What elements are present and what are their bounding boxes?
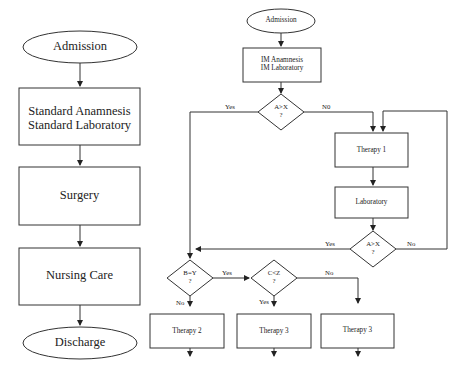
decision4-condition: C<Z [254,269,294,277]
left-nursing-label: Nursing Care [19,268,140,282]
therapy3b-label: Therapy 3 [321,326,394,334]
decision3-question: ? [170,277,210,285]
therapy1-label: Therapy 1 [335,146,408,154]
decision1-no-label: N0 [322,103,330,111]
left-surgery-label: Surgery [19,188,140,202]
decision4-no-label: No [325,269,333,277]
im-label: IM Anamnesis IM Laboratory [243,56,321,73]
decision2-no-label: No [407,240,415,248]
standard-anamnesis-text: Standard Anamnesis [19,104,140,118]
decision2-condition: A>X [353,240,393,248]
standard-laboratory-text: Standard Laboratory [19,118,140,132]
decision3-condition: B=Y [170,269,210,277]
decision1-label: A>X ? [261,103,301,119]
therapy3a-label: Therapy 3 [237,327,311,335]
laboratory-label: Laboratory [335,198,408,206]
decision1-question: ? [261,111,301,119]
decision1-yes-label: Yes [225,103,235,111]
decision3-yes-label: Yes [222,269,232,277]
decision1-condition: A>X [261,103,301,111]
left-standard-label: Standard Anamnesis Standard Laboratory [19,104,140,133]
left-admission-label: Admission [23,39,137,53]
decision4-label: C<Z ? [254,269,294,285]
decision2-question: ? [353,248,393,256]
im-laboratory-text: IM Laboratory [243,64,321,72]
left-discharge-label: Discharge [23,335,137,349]
decision3-no-label: No [176,299,184,307]
decision3-label: B=Y ? [170,269,210,285]
decision2-label: A>X ? [353,240,393,256]
decision4-yes-label: Yes [259,298,269,306]
decision2-yes-label: Yes [325,240,335,248]
im-anamnesis-text: IM Anamnesis [243,56,321,64]
right-admission-label: Admission [247,16,315,24]
therapy2-label: Therapy 2 [150,327,224,335]
decision4-question: ? [254,277,294,285]
